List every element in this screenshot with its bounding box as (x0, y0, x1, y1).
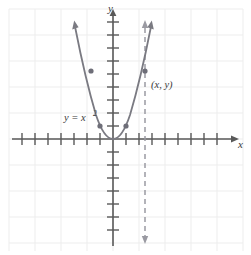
parabola-left-arrowhead (72, 21, 78, 30)
point-coordinates-label: (x, y) (151, 79, 173, 91)
point-left-inner (97, 123, 102, 128)
axis-lines (12, 16, 231, 246)
curve-equation-exponent: 2 (93, 109, 97, 118)
dashed-line-top-arrowhead (142, 20, 148, 28)
graph-figure: y x y = x 2 (x, y) (0, 0, 251, 255)
point-right-inner (123, 123, 128, 128)
parabola-right-arrowhead (147, 21, 153, 30)
grid-lines (9, 9, 243, 251)
point-right-outer (142, 68, 147, 73)
curve-equation-base: y = x (63, 112, 86, 123)
y-axis-label: y (107, 2, 113, 14)
coordinate-plane-svg: y x y = x 2 (x, y) (0, 0, 251, 255)
curve-equation-label: y = x 2 (63, 109, 97, 123)
x-axis-label: x (237, 138, 243, 150)
point-left-outer (88, 68, 93, 73)
